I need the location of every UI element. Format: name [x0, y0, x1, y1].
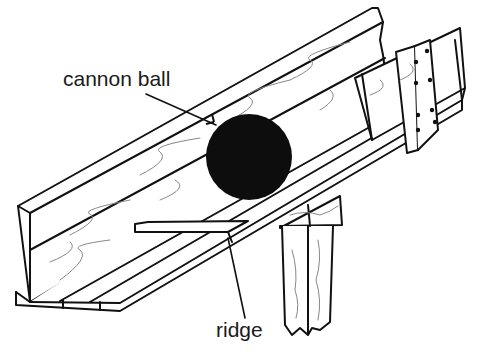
ridge-label: ridge	[216, 319, 263, 340]
trough-illustration: cannon ball ridge	[0, 0, 482, 359]
support-post	[280, 196, 342, 335]
cannon-ball-label: cannon ball	[63, 68, 170, 89]
trough-drawing	[0, 0, 482, 359]
cannon-ball	[206, 114, 292, 200]
